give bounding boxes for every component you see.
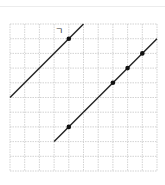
grid-diagram	[0, 0, 165, 185]
line-1	[10, 24, 84, 98]
point-line-2	[67, 125, 72, 130]
point-line-2	[111, 81, 116, 86]
line-label-giyeok: ㄱ	[55, 27, 63, 36]
grid	[10, 24, 157, 171]
point-line-1	[67, 36, 72, 41]
point-line-2	[140, 51, 145, 56]
point-line-2	[125, 66, 130, 71]
